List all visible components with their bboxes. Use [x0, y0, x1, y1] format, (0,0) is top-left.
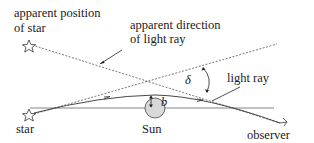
star-icon: [23, 109, 36, 121]
sun-label: Sun: [142, 123, 161, 136]
impact-arrow-head-top: [149, 96, 153, 99]
deflection-angle-label: δ: [185, 74, 191, 87]
apparent-direction-label-line2: of light ray: [130, 33, 186, 46]
apparent-star-icon: [23, 40, 36, 52]
observer-eye-icon: [280, 118, 287, 126]
apparent-direction-pointer-head: [100, 61, 105, 65]
apparent-direction-label-line1: apparent direction: [130, 19, 221, 32]
deflection-angle-arc: [203, 68, 209, 92]
impact-parameter-label: b: [161, 96, 167, 109]
observer-label: observer: [247, 129, 290, 142]
deflection-arc-head-bottom: [205, 90, 209, 94]
star-label: star: [16, 123, 34, 136]
apparent-position-label-line2: of star: [14, 22, 46, 35]
light-ray-label: light ray: [227, 72, 269, 85]
light-ray-pointer: [212, 87, 240, 101]
apparent-position-label-line1: apparent position: [14, 7, 100, 20]
